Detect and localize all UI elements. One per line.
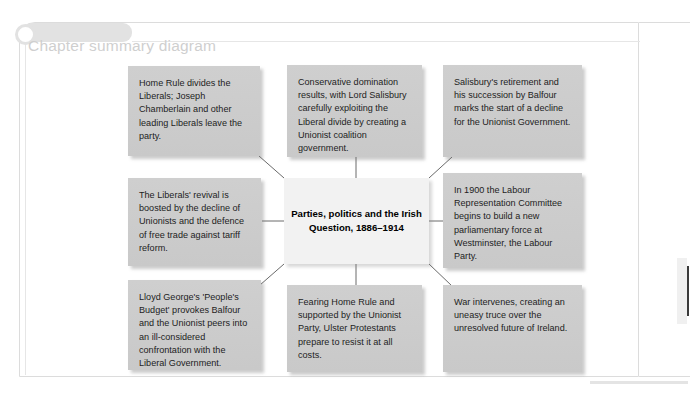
- node-text: Salisbury's retirement and his successio…: [454, 76, 571, 129]
- diagram-node-top-right: Salisbury's retirement and his successio…: [443, 65, 582, 157]
- bottom-accent-bar: [590, 381, 688, 384]
- header-vertical-rule: [25, 45, 26, 375]
- diagram-node-middle-right: In 1900 the Labour Representation Commit…: [443, 173, 582, 268]
- node-text: War intervenes, creating an uneasy truce…: [454, 296, 571, 336]
- diagram-node-bottom-center: Fearing Home Rule and supported by the U…: [287, 285, 422, 372]
- node-text: Lloyd George's 'People's Budget' provoke…: [139, 291, 250, 370]
- diagram-node-bottom-right: War intervenes, creating an uneasy truce…: [443, 285, 582, 372]
- node-text: The Liberals' revival is boosted by the …: [139, 189, 250, 255]
- diagram-node-top-left: Home Rule divides the Liberals; Joseph C…: [128, 66, 260, 156]
- page-title: Chapter summary diagram: [28, 37, 216, 55]
- node-text: In 1900 the Labour Representation Commit…: [454, 184, 571, 263]
- diagram-node-center: Parties, politics and the Irish Question…: [284, 178, 429, 264]
- page-edge-mark: [687, 266, 689, 316]
- diagram-node-middle-left: The Liberals' revival is boosted by the …: [128, 178, 261, 266]
- diagram-node-bottom-left: Lloyd George's 'People's Budget' provoke…: [128, 280, 261, 370]
- center-node-text: Parties, politics and the Irish Question…: [290, 207, 423, 235]
- node-text: Home Rule divides the Liberals; Joseph C…: [139, 77, 249, 143]
- node-text: Fearing Home Rule and supported by the U…: [298, 296, 411, 362]
- node-text: Conservative domination results, with Lo…: [298, 76, 411, 155]
- page-root: Chapter summary diagram: [0, 0, 697, 407]
- page-edge-soft: [677, 258, 687, 324]
- diagram-node-top-center: Conservative domination results, with Lo…: [287, 65, 422, 157]
